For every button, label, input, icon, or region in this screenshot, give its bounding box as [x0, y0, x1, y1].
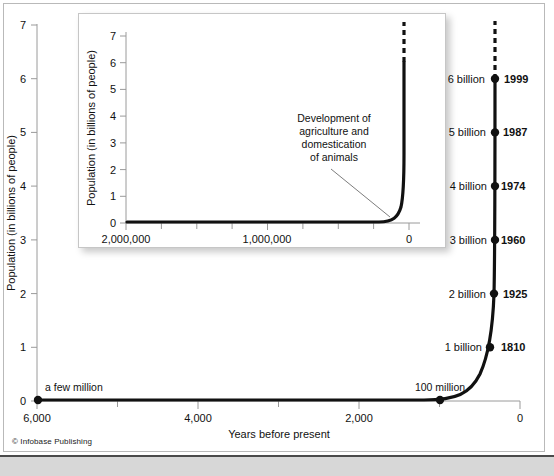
inset-chart-panel: 0 1 2 3 4 5 6 7 Population (in billions … — [78, 13, 446, 248]
inset-y-axis-title: Population (in billions of people) — [85, 50, 97, 206]
main-y-tick-labels: 0 1 2 3 4 5 6 7 — [20, 19, 26, 407]
y-tick-label: 7 — [20, 19, 26, 31]
inset-population-chart: 0 1 2 3 4 5 6 7 Population (in billions … — [79, 14, 445, 247]
milestone-labels: 1 billion 1810 2 billion 1925 3 billion … — [445, 73, 529, 354]
inset-annotation-line: of animals — [310, 151, 358, 163]
x-tick-label: 2,000 — [345, 412, 373, 424]
inset-x-tick-label: 1,000,000 — [243, 233, 292, 245]
milestone-dot-4-billion — [491, 182, 499, 190]
y-tick-label: 3 — [20, 234, 26, 246]
y-tick-label: 5 — [20, 126, 26, 138]
y-tick-label: 0 — [20, 395, 26, 407]
milestone-population: 5 billion — [449, 126, 486, 138]
chart-panel: 0 1 2 3 4 5 6 7 Population (in billions … — [3, 3, 545, 452]
milestone-year: 1960 — [501, 234, 525, 246]
milestone-population: 6 billion — [448, 73, 485, 85]
milestone-population: 4 billion — [450, 180, 487, 192]
inset-annotation-line: domestication — [302, 138, 367, 150]
milestone-dot-6-billion — [491, 75, 499, 83]
x-tick-label: 6,000 — [23, 412, 51, 424]
inset-y-tick-labels: 0 1 2 3 4 5 6 7 — [110, 30, 116, 229]
figure-root: 0 1 2 3 4 5 6 7 Population (in billions … — [0, 0, 554, 476]
y-tick-label: 6 — [20, 73, 26, 85]
inset-y-tick-label: 5 — [110, 83, 116, 95]
caption-band: Chart showing the world's exponentially … — [0, 457, 554, 476]
inset-annotation: Development of agriculture and domestica… — [297, 112, 371, 163]
publisher-credit: © Infobase Publishing — [12, 437, 92, 446]
milestone-dot-1-billion — [486, 343, 494, 351]
inset-y-ticks — [120, 36, 126, 223]
milestone-dot-2-billion — [490, 289, 498, 297]
inset-x-tick-label: 0 — [406, 233, 412, 245]
inset-y-tick-label: 2 — [110, 164, 116, 176]
inset-y-tick-label: 4 — [110, 110, 116, 122]
main-x-axis-title: Years before present — [228, 428, 330, 440]
inset-y-tick-label: 7 — [110, 30, 116, 42]
marker-label-100-million: 100 million — [415, 381, 465, 393]
inset-annotation-leader-line — [331, 169, 390, 217]
milestone-year: 1987 — [503, 126, 527, 138]
main-y-axis-title: Population (in billions of people) — [5, 135, 17, 291]
x-tick-label: 0 — [517, 412, 523, 424]
inset-y-tick-label: 6 — [110, 57, 116, 69]
milestone-population: 1 billion — [445, 341, 482, 353]
main-y-ticks — [31, 25, 37, 401]
inset-x-ticks — [126, 223, 409, 230]
milestone-population: 2 billion — [449, 288, 486, 300]
milestone-population: 3 billion — [450, 234, 487, 246]
inset-x-tick-label: 2,000,000 — [102, 233, 151, 245]
milestone-year: 1810 — [501, 341, 525, 353]
inset-y-tick-label: 1 — [110, 190, 116, 202]
y-tick-label: 1 — [20, 341, 26, 353]
milestone-dot-3-billion — [491, 236, 499, 244]
milestone-dot-5-billion — [491, 128, 499, 136]
marker-label-a-few-million: a few million — [45, 381, 103, 393]
milestone-year: 1999 — [504, 73, 528, 85]
inset-annotation-line: Development of — [297, 112, 371, 124]
main-x-tick-labels: 6,000 4,000 2,000 0 — [23, 412, 523, 424]
milestone-year: 1925 — [503, 288, 527, 300]
inset-x-tick-labels: 2,000,000 1,000,000 0 — [102, 233, 413, 245]
milestone-year: 1974 — [501, 180, 526, 192]
y-tick-label: 2 — [20, 288, 26, 300]
y-tick-label: 4 — [20, 180, 26, 192]
main-x-ticks — [37, 401, 520, 409]
marker-dot-a-few-million — [34, 396, 42, 404]
marker-dot-100-million — [436, 396, 444, 404]
inset-y-tick-label: 3 — [110, 137, 116, 149]
inset-y-tick-label: 0 — [110, 217, 116, 229]
inset-annotation-line: agriculture and — [299, 125, 369, 137]
x-tick-label: 4,000 — [184, 412, 212, 424]
